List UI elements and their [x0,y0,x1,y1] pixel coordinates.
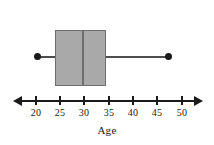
tick-label-45: 45 [145,107,169,119]
axis-arrow-left-icon [13,96,22,106]
tick-label-25: 25 [48,107,72,119]
x-axis: 20 25 30 35 40 45 50 Age [0,0,214,145]
tick-label-40: 40 [121,107,145,119]
tick-mark-20 [35,96,37,105]
axis-arrow-right-icon [194,96,203,106]
tick-label-35: 35 [97,107,121,119]
tick-label-20: 20 [24,107,48,119]
tick-mark-40 [132,96,134,105]
boxplot-figure: 20 25 30 35 40 45 50 Age [0,0,214,145]
tick-mark-25 [59,96,61,105]
tick-label-30: 30 [72,107,96,119]
tick-label-50: 50 [170,107,194,119]
tick-mark-35 [108,96,110,105]
tick-mark-30 [83,96,85,105]
axis-title: Age [0,124,214,136]
tick-mark-50 [181,96,183,105]
tick-mark-45 [156,96,158,105]
